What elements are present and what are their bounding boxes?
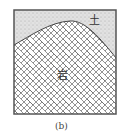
- soil-rock-diagram: [0, 0, 123, 135]
- soil-label: 土: [89, 15, 100, 26]
- rock-label: 岩: [57, 70, 68, 81]
- figure-caption: (b): [0, 121, 123, 131]
